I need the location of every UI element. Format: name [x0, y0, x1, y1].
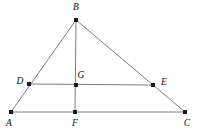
vertex-label-e: E [160, 77, 167, 87]
vertex-label-c: C [184, 118, 191, 128]
figure-canvas: ABCDEFG [0, 0, 198, 132]
vertex-point-g [74, 83, 78, 87]
segment-de [29, 84, 153, 85]
vertex-label-d: D [16, 76, 24, 86]
segments-layer [11, 20, 185, 112]
vertex-point-f [73, 110, 77, 114]
vertex-point-d [27, 82, 31, 86]
segment-bc [76, 20, 185, 112]
vertices-layer [9, 18, 187, 114]
vertex-label-b: B [73, 2, 79, 12]
vertex-point-b [74, 18, 78, 22]
vertex-label-a: A [5, 118, 12, 128]
vertex-label-f: F [71, 118, 78, 128]
vertex-point-a [9, 110, 13, 114]
labels-layer: ABCDEFG [5, 2, 191, 128]
vertex-point-e [151, 83, 155, 87]
vertex-point-c [183, 110, 187, 114]
vertex-label-g: G [78, 70, 85, 80]
segment-bf [75, 20, 76, 112]
segment-ab [11, 20, 76, 112]
geometry-figure: ABCDEFG [0, 0, 198, 132]
